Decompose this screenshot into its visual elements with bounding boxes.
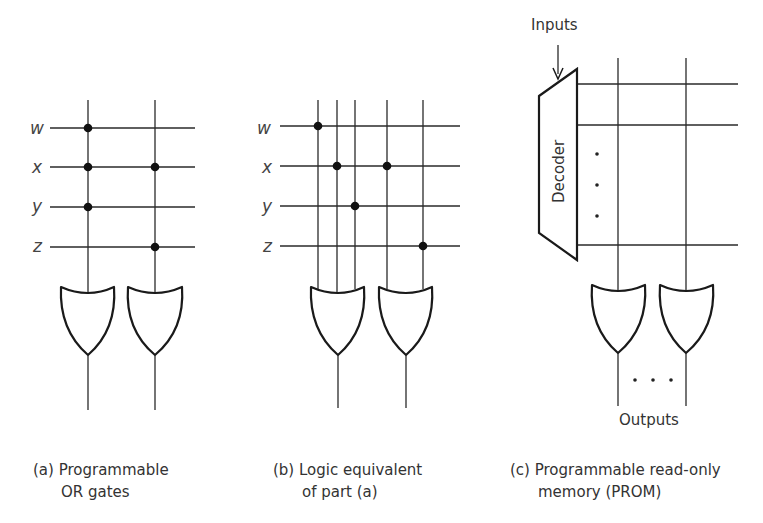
panel-b: w x y z (b) Logic equivalent o xyxy=(257,100,460,501)
fuse-dot xyxy=(351,202,360,211)
caption-c-line1: (c) Programmable read-only xyxy=(510,461,721,479)
gate-input-lines xyxy=(88,100,155,293)
caption-b-line2: of part (a) xyxy=(302,483,378,501)
connection-dots xyxy=(314,122,428,251)
inputs-label: Inputs xyxy=(531,16,578,34)
fuse-dot xyxy=(314,122,323,131)
input-label-w: w xyxy=(30,118,44,138)
ellipsis-horizontal-icon xyxy=(633,378,673,382)
decoder-label: Decoder xyxy=(550,139,568,203)
gate-input-lines xyxy=(318,100,423,293)
connection-dots xyxy=(84,124,160,252)
input-label-z: z xyxy=(262,236,273,256)
gate-input-lines xyxy=(618,58,686,291)
ellipsis-vertical-icon xyxy=(595,152,599,218)
caption-b-line1: (b) Logic equivalent xyxy=(273,461,422,479)
fuse-dot xyxy=(419,242,428,251)
caption-c-line2: memory (PROM) xyxy=(538,483,661,501)
input-label-z: z xyxy=(32,236,43,256)
or-gate-icon xyxy=(61,287,114,355)
input-label-x: x xyxy=(31,157,43,177)
prom-diagram: w x y z (a) Programmable OR gates w xyxy=(0,0,763,523)
or-gate-icon xyxy=(660,285,714,353)
panel-c: Inputs Decoder Outputs (c) Pr xyxy=(510,16,738,501)
fuse-dot xyxy=(333,162,342,171)
input-label-y: y xyxy=(31,196,43,216)
fuse-dot xyxy=(151,243,160,252)
input-lines xyxy=(50,128,195,247)
input-label-y: y xyxy=(261,196,273,216)
or-gate-icon xyxy=(128,287,183,355)
or-gate-icon xyxy=(592,285,646,353)
caption-a-line2: OR gates xyxy=(61,483,130,501)
fuse-dot xyxy=(84,124,93,133)
fuse-dot xyxy=(84,163,93,172)
decoder-output-lines xyxy=(577,84,738,245)
fuse-dot xyxy=(84,203,93,212)
or-gate-icon xyxy=(379,287,432,355)
panel-a: w x y z (a) Programmable OR gates xyxy=(30,100,195,501)
input-lines xyxy=(280,126,460,246)
outputs-label: Outputs xyxy=(619,411,679,429)
input-label-w: w xyxy=(257,118,271,138)
input-label-x: x xyxy=(261,157,273,177)
caption-a-line1: (a) Programmable xyxy=(33,461,169,479)
or-gate-icon xyxy=(311,287,364,355)
fuse-dot xyxy=(151,163,160,172)
fuse-dot xyxy=(383,162,392,171)
